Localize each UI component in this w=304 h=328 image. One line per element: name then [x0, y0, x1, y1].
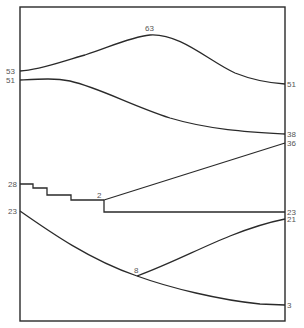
label-left-53: 53 — [6, 67, 15, 76]
label-left-28: 28 — [8, 180, 17, 189]
label-left-51: 51 — [6, 76, 15, 85]
label-right-3: 3 — [287, 301, 292, 310]
branch-up-from-8 — [137, 219, 285, 276]
diagram-canvas: 53 51 28 23 63 2 8 51 38 36 23 21 3 — [0, 0, 304, 328]
label-right-38: 38 — [287, 130, 296, 139]
label-right-36: 36 — [287, 139, 296, 148]
branch-flat-line — [104, 200, 285, 212]
label-peak-63: 63 — [145, 24, 154, 33]
label-node-8: 8 — [134, 266, 139, 275]
step-line — [20, 184, 104, 200]
label-right-51: 51 — [287, 80, 296, 89]
curve-bottom — [20, 211, 285, 305]
label-left-23: 23 — [8, 207, 17, 216]
branch-up-line — [104, 143, 285, 200]
curve-second — [20, 79, 285, 134]
label-node-2: 2 — [97, 191, 102, 200]
label-right-21: 21 — [287, 215, 296, 224]
curve-top — [20, 35, 285, 84]
diagram-frame — [20, 7, 285, 321]
